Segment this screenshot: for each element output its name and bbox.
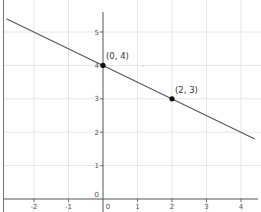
y-tick-label: 0 — [95, 191, 99, 199]
axes — [4, 12, 258, 212]
x-tick-label: 3 — [204, 203, 208, 211]
x-tick-label: 0 — [106, 203, 110, 211]
x-tick-label: -1 — [65, 203, 72, 211]
point-label: (0, 4) — [106, 51, 129, 61]
x-tick-label: 4 — [239, 203, 244, 211]
data-point[interactable] — [169, 96, 174, 101]
x-tick-label: -2 — [31, 203, 38, 211]
y-tick-label: 5 — [95, 29, 99, 37]
grid-lines — [4, 0, 261, 212]
point-label: (2, 3) — [175, 85, 198, 95]
y-tick-label: 1 — [95, 162, 99, 170]
x-tick-label: 2 — [170, 203, 174, 211]
data-point[interactable] — [100, 63, 105, 68]
coordinate-plane: -2-101234012345 (0, 4)(2, 3) — [0, 0, 261, 212]
data-line — [6, 19, 254, 139]
line-series — [6, 19, 254, 139]
data-points: (0, 4)(2, 3) — [100, 51, 197, 101]
y-tick-label: 3 — [95, 95, 99, 103]
y-tick-label: 2 — [95, 129, 99, 137]
x-tick-label: 1 — [135, 203, 139, 211]
